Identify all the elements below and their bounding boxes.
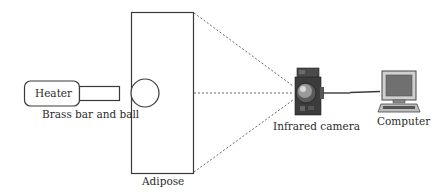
experiment-setup-diagram: Heater Brass bar and ball Adipose Infrar… <box>0 0 441 194</box>
computer-icon <box>378 71 420 112</box>
infrared-camera-icon <box>295 68 324 115</box>
brass-bar-label: Brass bar and ball <box>42 108 140 120</box>
adipose-label: Adipose <box>141 175 184 187</box>
infrared-camera-label: Infrared camera <box>273 120 360 132</box>
field-of-view-lines <box>194 13 293 172</box>
computer-label: Computer <box>377 115 431 127</box>
heater-label: Heater <box>35 87 73 99</box>
brass-ball <box>131 79 159 107</box>
brass-bar <box>80 87 120 101</box>
camera-cable-2 <box>350 92 380 93</box>
